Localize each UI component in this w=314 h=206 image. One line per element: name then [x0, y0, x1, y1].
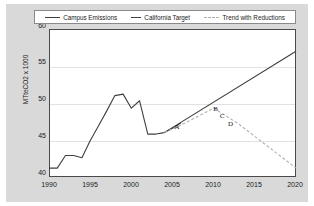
y-tick-45: 45	[18, 132, 46, 139]
chart-legend: Campus Emissions California Target Trend…	[34, 10, 296, 24]
x-tick-2005: 2005	[152, 181, 192, 188]
x-tick-1990: 1990	[29, 181, 69, 188]
annotation-b: B	[213, 105, 218, 113]
legend-line-icon	[131, 17, 141, 18]
annotation-d: D	[228, 120, 233, 128]
legend-item-california-target[interactable]: California Target	[131, 14, 190, 21]
series-campus-emissions	[49, 94, 181, 168]
legend-label: Campus Emissions	[63, 14, 117, 21]
x-tick-2015: 2015	[234, 181, 274, 188]
annotation-a: A	[174, 123, 179, 131]
chart-series-layer	[49, 29, 296, 177]
x-tick-1995: 1995	[70, 181, 110, 188]
y-tick-50: 50	[18, 95, 46, 102]
x-tick-2020: 2020	[275, 181, 314, 188]
legend-label: California Target	[144, 14, 190, 21]
legend-label: Trend with Reductions	[222, 14, 284, 21]
legend-item-campus-emissions[interactable]: Campus Emissions	[45, 14, 117, 21]
chart-figure: MTteCO2 x 1000 60 55 50 45 40 ABCD 1990 …	[6, 4, 308, 202]
legend-line-icon	[45, 17, 60, 18]
y-axis-title: MTteCO2 x 1000	[22, 41, 29, 119]
x-tick-2000: 2000	[111, 181, 151, 188]
legend-item-trend-with-reductions[interactable]: Trend with Reductions	[204, 14, 284, 21]
x-axis-tick-labels: 1990 1995 2000 2005 2010 2015 2020	[49, 181, 296, 195]
x-tick-2010: 2010	[193, 181, 233, 188]
legend-dashed-line-icon	[204, 17, 219, 18]
y-axis-tick-labels: MTteCO2 x 1000 60 55 50 45 40	[14, 4, 46, 202]
y-tick-55: 55	[18, 58, 46, 65]
series-trend-with-reductions	[164, 108, 296, 168]
annotation-c: C	[220, 112, 225, 120]
y-tick-40: 40	[18, 169, 46, 176]
